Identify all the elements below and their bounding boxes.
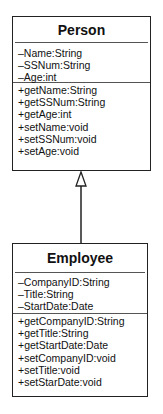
method: +setStarDate:void — [18, 376, 147, 388]
attributes-section: –CompanyID:String –Title:String –StartDa… — [13, 273, 147, 314]
class-employee: Employee –CompanyID:String –Title:String… — [12, 243, 148, 397]
method: +setTitle:void — [18, 364, 147, 376]
attribute: –StartDate:Date — [18, 300, 147, 312]
hollow-triangle-arrowhead-icon — [76, 172, 86, 186]
class-name: Employee — [15, 244, 145, 273]
method: +getTitle:String — [18, 327, 147, 339]
method: +getCompanyID:String — [18, 315, 147, 327]
attribute: –CompanyID:String — [18, 276, 147, 288]
attribute: –Title:String — [18, 288, 147, 300]
method: +setCompanyID:void — [18, 352, 147, 364]
methods-section: +getCompanyID:String +getTitle:String +g… — [13, 314, 147, 388]
method: +getStartDate:Date — [18, 339, 147, 351]
